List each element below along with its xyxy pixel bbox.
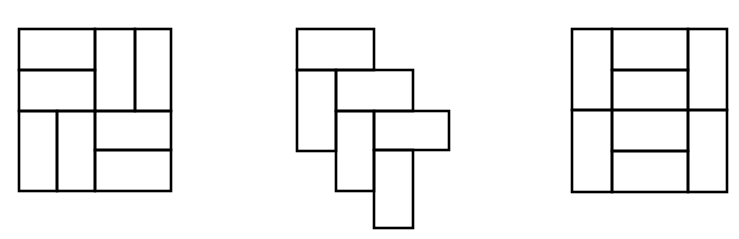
domino-rect [572,29,612,110]
figure-1-square-tiling [19,29,171,191]
domino-rect [336,70,413,111]
domino-rect [688,110,727,192]
domino-rect [135,29,171,111]
domino-rect [612,70,688,110]
domino-rect [19,70,95,111]
domino-rect [19,111,57,191]
domino-rect [95,111,171,150]
domino-rect [612,151,688,192]
diagram-canvas [0,0,739,239]
domino-rect [612,29,688,70]
domino-rect [374,150,413,228]
domino-rect [19,29,95,70]
domino-rect [95,29,135,111]
domino-rect [374,111,449,150]
domino-rect [95,150,171,191]
figure-3-square-tiling [572,29,727,192]
domino-rect [57,111,95,191]
domino-rect [572,110,612,192]
domino-rect [336,111,374,191]
domino-rect [297,70,336,151]
domino-rect [612,110,688,151]
domino-rect [688,29,727,110]
domino-rect [297,29,374,70]
figure-2-staircase-tiling [297,29,449,228]
